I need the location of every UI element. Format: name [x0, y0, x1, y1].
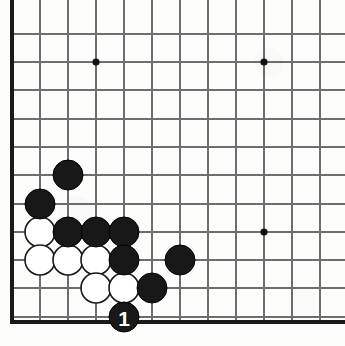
white-stone: [25, 217, 55, 247]
black-stone: [165, 245, 195, 275]
star-point-upper-right: [260, 58, 267, 65]
move-number-label: 1: [118, 307, 130, 330]
black-stone: [25, 189, 55, 219]
black-stone: [53, 217, 83, 247]
star-point-center-right: [260, 228, 267, 235]
white-stone: [109, 273, 139, 303]
white-stone: [25, 245, 55, 275]
black-stone: [109, 245, 139, 275]
go-board-diagram: 1: [0, 0, 345, 346]
black-stone: [137, 273, 167, 303]
black-stone: [53, 160, 83, 190]
white-stone: [53, 245, 83, 275]
go-board-canvas: 1: [0, 0, 345, 346]
black-stone: [81, 217, 111, 247]
white-stone: [81, 245, 111, 275]
white-stone: [81, 273, 111, 303]
black-stone: [109, 217, 139, 247]
grid-vertical-lines: [12, 0, 320, 322]
star-point-upper-left: [92, 58, 99, 65]
numbered-stones-group: 1: [109, 302, 139, 332]
